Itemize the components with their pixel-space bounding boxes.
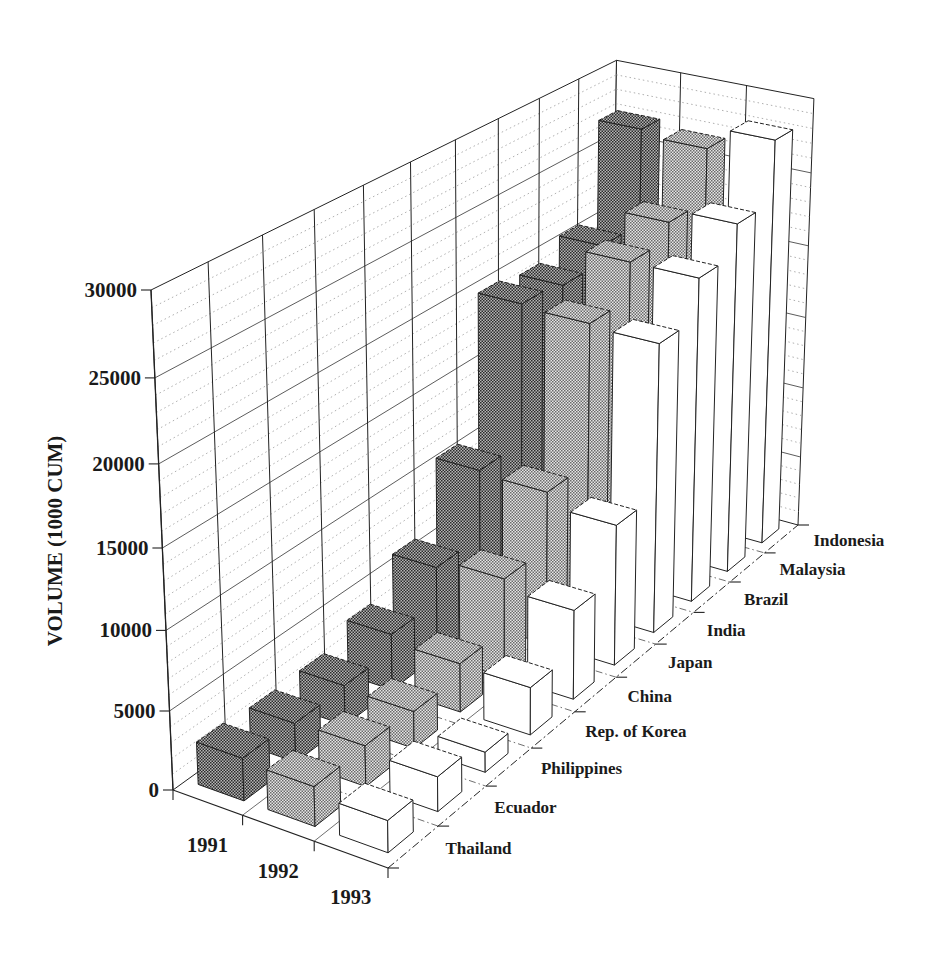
bar-face-side xyxy=(573,594,595,699)
series-label-1993: 1993 xyxy=(330,886,371,908)
y-tick-label: 25000 xyxy=(88,366,141,390)
category-label-japan: Japan xyxy=(668,653,713,672)
category-label-ecuador: Ecuador xyxy=(494,798,557,817)
category-label-indonesia: Indonesia xyxy=(814,531,885,550)
y-tick-label: 30000 xyxy=(85,278,138,302)
y-tick-label: 10000 xyxy=(100,618,153,642)
category-label-china: China xyxy=(628,687,673,706)
y-tick-label: 15000 xyxy=(96,536,149,560)
category-label-rep-of-korea: Rep. of Korea xyxy=(585,722,687,741)
y-tick-label: 20000 xyxy=(92,452,145,476)
y-axis-title: VOLUME (1000 CUM) xyxy=(43,436,67,647)
series-label-1991: 1991 xyxy=(187,834,228,856)
chart-3d-bar: VOLUME (1000 CUM) 0500010000150002000025… xyxy=(0,0,936,956)
category-label-brazil: Brazil xyxy=(744,590,789,609)
category-label-india: India xyxy=(707,621,746,640)
bar-face-side xyxy=(614,510,636,665)
series-label-1992: 1992 xyxy=(258,860,299,882)
bar-rep-of-korea-1993 xyxy=(484,656,553,735)
category-label-thailand: Thailand xyxy=(445,839,512,858)
y-tick-label: 0 xyxy=(149,778,160,802)
category-label-philippines: Philippines xyxy=(541,759,623,778)
y-tick-label: 5000 xyxy=(114,699,156,723)
category-label-malaysia: Malaysia xyxy=(779,560,846,579)
chart-figure: VOLUME (1000 CUM) 0500010000150002000025… xyxy=(0,0,936,956)
